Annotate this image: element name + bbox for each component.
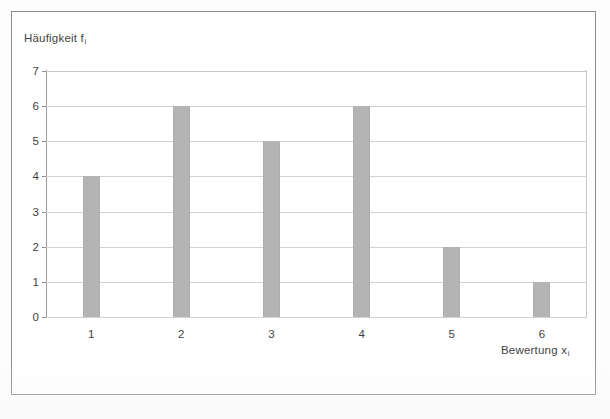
x-tick-label: 4 — [358, 328, 364, 340]
gridline-y-3 — [46, 212, 587, 213]
y-tick-mark-0 — [42, 317, 46, 318]
x-axis-title-subscript: i — [567, 349, 569, 358]
gridline-y-0 — [46, 317, 587, 318]
y-tick-label: 2 — [33, 241, 39, 253]
y-axis-title: Häufigkeit fi — [24, 32, 86, 44]
scanned-page: Häufigkeit fi 01234567 Bewertung xi 1234… — [0, 0, 610, 419]
y-tick-mark-3 — [42, 212, 46, 213]
y-tick-label: 6 — [33, 100, 39, 112]
gridline-y-4 — [46, 176, 587, 177]
y-tick-mark-4 — [42, 176, 46, 177]
bar-2 — [173, 106, 190, 317]
x-tick-label: 3 — [268, 328, 274, 340]
plot-area: 01234567 — [46, 71, 587, 317]
y-tick-label: 0 — [33, 311, 39, 323]
y-tick-mark-7 — [42, 71, 46, 72]
x-axis-title-text: Bewertung x — [501, 344, 567, 356]
bar-3 — [263, 141, 280, 317]
y-tick-mark-6 — [42, 106, 46, 107]
gridline-y-2 — [46, 247, 587, 248]
y-tick-label: 5 — [33, 135, 39, 147]
x-axis-title: Bewertung xi — [501, 344, 570, 356]
y-axis-title-text: Häufigkeit f — [24, 32, 84, 44]
y-tick-label: 4 — [33, 170, 39, 182]
y-tick-mark-1 — [42, 282, 46, 283]
bar-4 — [353, 106, 370, 317]
bar-1 — [83, 176, 100, 317]
gridline-y-7 — [46, 71, 587, 72]
y-tick-label: 3 — [33, 206, 39, 218]
y-axis-title-subscript: i — [84, 37, 86, 46]
x-tick-label: 1 — [88, 328, 94, 340]
x-tick-label: 2 — [178, 328, 184, 340]
y-tick-label: 1 — [33, 276, 39, 288]
x-tick-label: 6 — [539, 328, 545, 340]
bar-6 — [533, 282, 550, 317]
figure-frame: Häufigkeit fi 01234567 Bewertung xi 1234… — [11, 11, 596, 395]
x-tick-label: 5 — [449, 328, 455, 340]
y-tick-label: 7 — [33, 65, 39, 77]
gridline-y-1 — [46, 282, 587, 283]
bar-chart: Häufigkeit fi 01234567 Bewertung xi 1234… — [12, 12, 597, 396]
y-tick-mark-5 — [42, 141, 46, 142]
gridline-y-5 — [46, 141, 587, 142]
gridline-y-6 — [46, 106, 587, 107]
bar-5 — [443, 247, 460, 317]
y-tick-mark-2 — [42, 247, 46, 248]
